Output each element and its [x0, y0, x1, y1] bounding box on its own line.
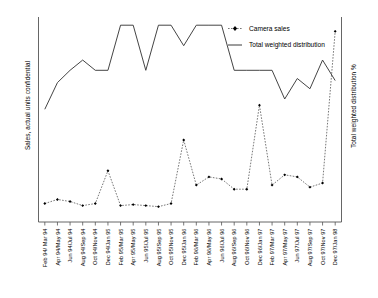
x-axis-tick-label: Aug 95/Sep 95	[156, 229, 162, 267]
x-axis-tick-label: Oct 95/Nov 95	[168, 229, 174, 265]
data-point-marker	[81, 204, 84, 207]
x-axis-tick-label: Feb 95/Mar 95	[118, 229, 124, 266]
data-point-marker	[56, 198, 59, 201]
data-point-marker	[334, 30, 337, 33]
x-axis-tick-label: Dec 95/Jan 96	[181, 229, 187, 266]
x-axis-tick-label: Aug 97/Sep 97	[307, 229, 313, 267]
x-axis-ticks	[45, 222, 335, 226]
data-point-marker	[182, 139, 185, 142]
legend-diamond-marker-icon	[233, 26, 237, 31]
legend-item-camera-sales: Camera sales	[228, 25, 290, 32]
x-axis-tick-label: Jun 94/Jul 94	[67, 229, 73, 263]
data-point-marker	[245, 188, 248, 191]
dual-axis-line-chart: Feb 94/ Mar 94Apr 94/May 94Jun 94/Jul 94…	[0, 0, 378, 298]
x-axis-tick-label: Jun 95/Jul 95	[143, 229, 149, 263]
series-camera-sales-markers	[43, 30, 336, 208]
x-axis-tick-label: Apr 96/May 96	[206, 229, 212, 266]
x-axis-tick-label: Dec 97/Jan 98	[332, 229, 338, 266]
left-axis-title: Sales, actual units confidential	[24, 61, 31, 150]
data-point-marker	[106, 169, 109, 172]
data-point-marker	[233, 188, 236, 191]
x-axis-tick-label: Apr 97/May 97	[282, 229, 288, 266]
x-axis-tick-label: Aug 96/Sep 96	[231, 229, 237, 267]
data-point-marker	[258, 104, 261, 107]
x-axis-tick-label: Aug 94/Sep 94	[80, 229, 86, 267]
series-total-weighted-distribution	[45, 25, 335, 109]
x-axis-tick-label: Oct 94/Nov 94	[92, 229, 98, 265]
x-axis-tick-label: Oct 97/Nov 97	[320, 229, 326, 265]
x-axis-tick-label: Feb 97/Mar 97	[269, 229, 275, 266]
x-axis-tick-label: Dec 96/Jan 97	[257, 229, 263, 266]
chart-container: Feb 94/ Mar 94Apr 94/May 94Jun 94/Jul 94…	[0, 0, 378, 298]
x-axis-tick-label: Jun 97/Jul 97	[294, 229, 300, 263]
x-axis-tick-label: Feb 96/Mar 96	[193, 229, 199, 266]
data-point-marker	[157, 205, 160, 208]
x-axis-tick-label: Dec 94/Jan 95	[105, 229, 111, 266]
x-axis-tick-label: Apr 95/May 95	[130, 229, 136, 266]
data-point-marker	[94, 202, 97, 205]
x-axis-tick-label: Apr 94/May 94	[55, 229, 61, 266]
legend-label-total-weighted-distribution: Total weighted distribution	[249, 41, 325, 49]
data-point-marker	[321, 182, 324, 185]
data-point-marker	[283, 173, 286, 176]
data-point-marker	[132, 203, 135, 206]
data-point-marker	[119, 204, 122, 207]
x-axis-tick-label: Feb 94/ Mar 94	[42, 229, 48, 268]
right-axis-title: Total weighted distribution %	[350, 64, 358, 148]
x-axis-tick-labels: Feb 94/ Mar 94Apr 94/May 94Jun 94/Jul 94…	[42, 229, 338, 268]
chart-legend: Camera sales Total weighted distribution	[228, 25, 325, 50]
legend-label-camera-sales: Camera sales	[249, 25, 290, 32]
legend-item-total-weighted-distribution: Total weighted distribution	[228, 41, 325, 49]
data-point-marker	[43, 202, 46, 205]
data-point-marker	[170, 202, 173, 205]
data-point-marker	[69, 200, 72, 203]
x-axis-tick-label: Oct 96/Nov 96	[244, 229, 250, 265]
x-axis-tick-label: Jun 96/Jul 96	[219, 229, 225, 263]
data-point-marker	[144, 204, 147, 207]
series-camera-sales-line	[45, 31, 335, 206]
